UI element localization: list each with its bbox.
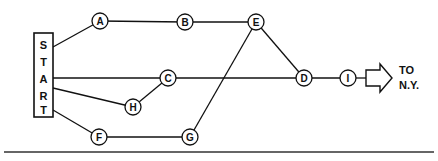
node-e-label: E (253, 17, 260, 28)
network-diagram: S T A R T A B E C (0, 0, 438, 161)
start-letter-s: S (40, 39, 47, 51)
node-i-label: I (347, 73, 350, 84)
node-g-label: G (186, 132, 194, 143)
diagram-canvas: S T A R T A B E C (0, 0, 438, 161)
block-arrow-right-icon (366, 64, 392, 92)
start-letter-a: A (40, 73, 48, 85)
node-d[interactable]: D (296, 70, 312, 86)
start-box: S T A R T (34, 33, 53, 117)
destination-label: TO N.Y. (399, 64, 419, 91)
node-c[interactable]: C (160, 70, 176, 86)
node-b-label: B (181, 17, 188, 28)
edge-e-d (256, 22, 304, 78)
node-b[interactable]: B (177, 14, 193, 30)
node-f[interactable]: F (91, 129, 107, 145)
node-a-label: A (96, 16, 103, 27)
start-letter-t1: T (40, 56, 47, 68)
node-d-label: D (300, 73, 307, 84)
node-h-label: H (129, 102, 136, 113)
node-e[interactable]: E (248, 14, 264, 30)
node-g[interactable]: G (182, 129, 198, 145)
destination-line-1: TO (399, 64, 415, 76)
node-f-label: F (96, 132, 102, 143)
edge-g-e (190, 22, 256, 137)
edge-a-b (100, 21, 185, 22)
edge-start-h (53, 88, 133, 107)
node-a[interactable]: A (92, 13, 108, 29)
edge-group (53, 21, 366, 137)
node-h[interactable]: H (125, 99, 141, 115)
start-letter-r: R (40, 90, 48, 102)
node-i[interactable]: I (340, 70, 356, 86)
start-letter-t2: T (40, 104, 47, 116)
destination-line-2: N.Y. (399, 79, 419, 91)
node-c-label: C (164, 73, 171, 84)
